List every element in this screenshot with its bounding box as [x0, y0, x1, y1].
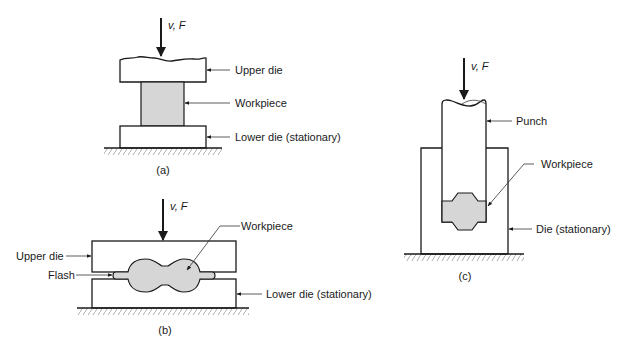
force-label: v, F	[168, 19, 187, 31]
force-label: v, F	[471, 60, 490, 72]
label-flash: Flash	[48, 269, 75, 281]
panel-a: v, F Upper die Workpiece Lower die (stat…	[104, 18, 341, 176]
label-lower-die: Lower die (stationary)	[266, 288, 372, 300]
label-workpiece: Workpiece	[235, 97, 287, 109]
label-workpiece: Workpiece	[541, 158, 593, 170]
workpiece	[141, 82, 184, 126]
panel-c: v, F Punch Workpiece Die (stationary) (c…	[404, 58, 611, 282]
ground-hatch	[104, 148, 222, 155]
upper-die	[120, 57, 206, 82]
label-upper-die: Upper die	[16, 250, 64, 262]
caption-b: (b)	[158, 324, 171, 336]
forging-diagram: v, F Upper die Workpiece Lower die (stat…	[0, 0, 621, 348]
label-punch: Punch	[516, 115, 547, 127]
ground-hatch	[77, 308, 249, 315]
caption-a: (a)	[156, 164, 169, 176]
lower-die	[120, 126, 206, 148]
caption-c: (c)	[459, 270, 472, 282]
label-upper-die: Upper die	[235, 64, 283, 76]
label-die: Die (stationary)	[536, 223, 611, 235]
ground-hatch	[404, 254, 524, 261]
label-workpiece: Workpiece	[241, 220, 293, 232]
force-label: v, F	[170, 200, 189, 212]
panel-b: v, F Upper die Flash Workpiece Lower die…	[16, 199, 372, 336]
label-lower-die: Lower die (stationary)	[235, 131, 341, 143]
